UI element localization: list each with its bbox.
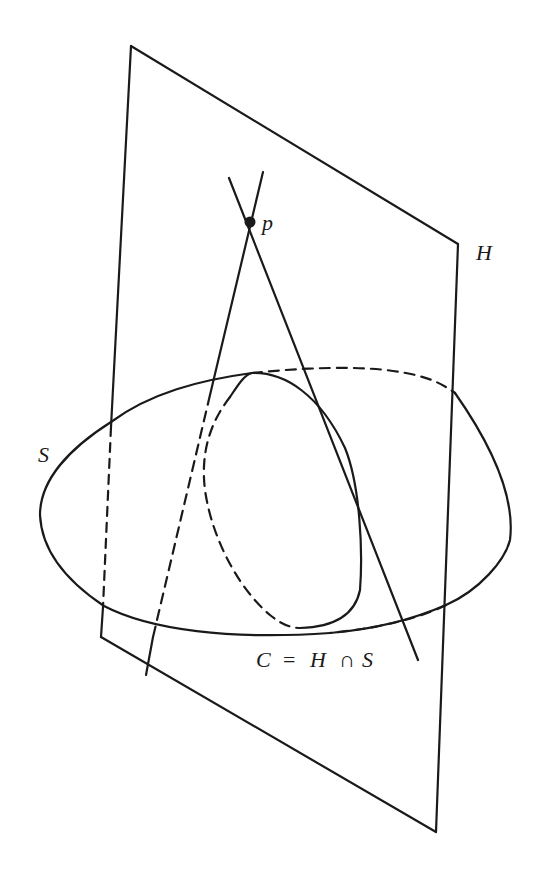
surface-s-front-outline <box>40 373 511 635</box>
label-p: p <box>260 210 273 235</box>
label-c: C <box>256 647 271 672</box>
label-c-s: S <box>362 647 373 672</box>
label-c-h: H <box>309 647 327 672</box>
tangent-line-2-solid <box>229 178 418 660</box>
tangent-line-2 <box>229 178 418 660</box>
label-s: S <box>38 442 49 467</box>
tangent-line-1 <box>146 172 263 675</box>
curve-c-hidden <box>204 397 300 628</box>
plane-h-top-edge <box>131 46 458 244</box>
surface-s <box>40 368 511 635</box>
label-c-equals-h-cap-s: C = H ∩ S <box>256 647 373 672</box>
tangent-line-1-lower <box>146 637 153 675</box>
plane-h-left-edge-hidden <box>103 427 111 607</box>
surface-s-back-outline <box>252 368 455 393</box>
label-equals: = <box>283 647 295 672</box>
curve-c-visible <box>230 373 361 628</box>
plane-h-right-edge <box>436 244 458 832</box>
diagram-canvas: p H S C = H ∩ S <box>0 0 546 876</box>
tangent-line-1-hidden <box>153 395 210 637</box>
surface-s-back-lower <box>330 605 446 633</box>
label-cap: ∩ <box>339 647 355 672</box>
plane-h-left-edge-lower <box>101 607 103 637</box>
point-p <box>245 217 256 228</box>
plane-h-left-edge-upper <box>111 46 131 427</box>
tangent-line-1-upper <box>210 172 263 395</box>
curve-c <box>204 373 361 628</box>
plane-h <box>101 46 458 832</box>
label-h: H <box>475 240 493 265</box>
